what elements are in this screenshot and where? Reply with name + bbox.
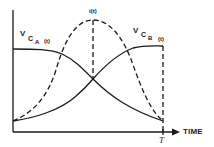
waveform-diagram: V C A (t) i(t) V C B (t) TIME T [0, 0, 214, 147]
label-vca-c: C [28, 35, 33, 42]
x-axis-label: TIME [183, 128, 203, 136]
label-i: i(t) [89, 8, 97, 14]
label-vcb-b: B [148, 35, 152, 41]
label-vca-a: A [35, 39, 39, 45]
x-axis-arrow-icon [172, 129, 180, 136]
label-vcb-v: V [133, 27, 138, 35]
label-vcb-c: C [141, 31, 146, 38]
label-vcb-arg: (t) [158, 36, 164, 42]
x-axis-end-marker: T [159, 136, 164, 145]
diagram-canvas [0, 0, 214, 147]
label-vca-v: V [20, 30, 25, 38]
label-vca-arg: (t) [44, 38, 50, 44]
